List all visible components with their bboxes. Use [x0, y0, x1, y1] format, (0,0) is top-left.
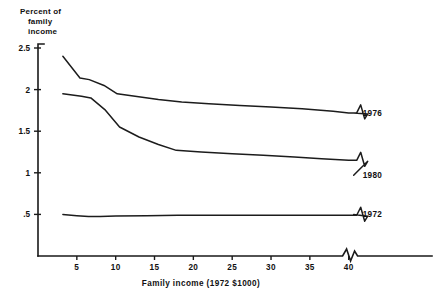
- y-axis-tick-label: 1.5: [19, 127, 31, 136]
- x-axis-title: Family income (1972 $1000): [142, 279, 260, 288]
- series-group: 1976: [63, 56, 382, 119]
- line-chart-canvas: Percent offamilyincome.511.522.551015202…: [0, 0, 439, 294]
- y-axis-tick-label: 1: [25, 169, 30, 178]
- series-line: [63, 207, 368, 221]
- y-axis-tick-label: 2: [25, 86, 30, 95]
- series-label: 1972: [363, 210, 383, 219]
- y-axis-tick-label: 2.5: [19, 44, 31, 53]
- x-axis-tick-label: 10: [111, 263, 121, 272]
- y-axis-tick-label: .5: [23, 210, 30, 219]
- chart-title-line: Percent of: [20, 7, 61, 16]
- y-axis: [38, 44, 44, 256]
- chart-title-line: family: [28, 17, 53, 26]
- x-axis-tick-label: 25: [227, 263, 237, 272]
- series-group: 1972: [63, 207, 382, 221]
- x-axis-tick-label: 35: [305, 263, 315, 272]
- series-line: [63, 94, 368, 176]
- x-axis-tick-label: 30: [266, 263, 276, 272]
- x-axis-tick-label: 15: [150, 263, 160, 272]
- series-label: 1976: [363, 109, 383, 118]
- x-axis-tick-label: 5: [74, 263, 79, 272]
- x-axis-tick-label: 40: [344, 263, 354, 272]
- x-axis-tick-label: 20: [188, 263, 198, 272]
- series-label: 1980: [363, 171, 383, 180]
- series-group: 1980: [63, 94, 382, 181]
- chart-title-line: income: [28, 27, 58, 36]
- chart-figure: Percent offamilyincome.511.522.551015202…: [0, 0, 439, 294]
- chart-title: Percent offamilyincome: [20, 7, 61, 36]
- x-axis: [38, 249, 432, 261]
- series-line: [63, 56, 368, 119]
